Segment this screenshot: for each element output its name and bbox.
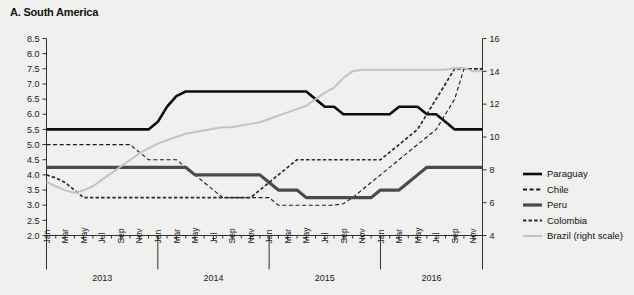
legend-label-brazil-right-scale[interactable]: Brazil (right scale) xyxy=(547,230,623,241)
chart-panel: A. South America 8.58.07.57.06.56.05.55.… xyxy=(0,0,634,295)
left-axis-tick-label: 7.0 xyxy=(27,79,40,89)
x-axis-month-label: May xyxy=(79,227,89,244)
left-axis-tick-label: 3.5 xyxy=(27,185,40,195)
line-chart-svg: 8.58.07.57.06.56.05.55.04.54.03.53.02.52… xyxy=(0,0,634,295)
right-axis-tick-label: 4 xyxy=(490,231,495,241)
x-axis-year-label: 2013 xyxy=(92,273,112,283)
x-axis-month-label: Nov xyxy=(246,228,256,244)
right-axis-tick-label: 8 xyxy=(490,165,495,175)
x-axis-month-label: Nov xyxy=(468,228,478,244)
x-axis-month-label: Mar xyxy=(394,229,404,244)
x-axis-month-label: May xyxy=(190,227,200,244)
left-axis-tick-label: 2.0 xyxy=(27,231,40,241)
left-axis-tick-label: 4.0 xyxy=(27,170,40,180)
x-axis-month-label: Mar xyxy=(60,229,70,244)
x-axis-month-label: Sep xyxy=(227,228,237,243)
x-axis-year-label: 2014 xyxy=(203,273,223,283)
legend-label-paraguay[interactable]: Paraguay xyxy=(547,168,588,179)
x-axis-month-label: Jul xyxy=(431,233,441,244)
x-axis-month-label: Nov xyxy=(134,228,144,244)
legend-label-colombia[interactable]: Colombia xyxy=(547,215,588,226)
left-axis-tick-label: 5.5 xyxy=(27,125,40,135)
left-axis-tick-label: 6.5 xyxy=(27,94,40,104)
x-axis-month-label: Jul xyxy=(209,233,219,244)
x-axis-month-label: Mar xyxy=(283,229,293,244)
right-axis-tick-label: 10 xyxy=(490,132,500,142)
left-axis-tick-label: 7.5 xyxy=(27,64,40,74)
left-axis-tick-label: 6.0 xyxy=(27,109,40,119)
legend-label-chile[interactable]: Chile xyxy=(547,184,569,195)
left-axis-tick-label: 2.5 xyxy=(27,216,40,226)
left-axis-tick-label: 3.0 xyxy=(27,200,40,210)
x-axis-year-label: 2016 xyxy=(421,273,441,283)
left-axis-tick-label: 5.0 xyxy=(27,140,40,150)
right-axis-tick-label: 6 xyxy=(490,198,495,208)
x-axis-month-label: Mar xyxy=(172,229,182,244)
right-axis-tick-label: 14 xyxy=(490,67,500,77)
left-axis-tick-label: 8.0 xyxy=(27,49,40,59)
left-axis-tick-label: 8.5 xyxy=(27,34,40,44)
right-axis-tick-label: 16 xyxy=(490,34,500,44)
x-axis-month-label: Nov xyxy=(357,228,367,244)
x-axis-year-label: 2015 xyxy=(315,273,335,283)
x-axis-month-label: Sep xyxy=(450,228,460,243)
x-axis-month-label: May xyxy=(301,227,311,244)
series-line-paraguay xyxy=(47,92,483,130)
left-axis-tick-label: 4.5 xyxy=(27,155,40,165)
legend-label-peru[interactable]: Peru xyxy=(547,199,567,210)
x-axis-month-label: May xyxy=(413,227,423,244)
x-axis-month-label: Jul xyxy=(97,233,107,244)
right-axis-tick-label: 12 xyxy=(490,99,500,109)
x-axis-month-label: Sep xyxy=(116,228,126,243)
series-line-chile xyxy=(47,69,483,205)
x-axis-month-label: Sep xyxy=(339,228,349,243)
x-axis-month-label: Jul xyxy=(320,233,330,244)
